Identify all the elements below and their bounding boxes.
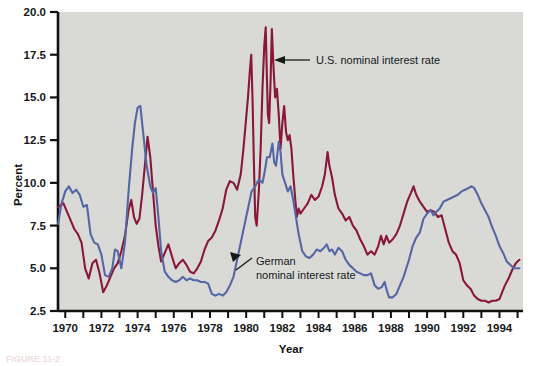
x-tick-label: 1976	[161, 322, 187, 334]
y-tick-label: 5.0	[30, 262, 46, 274]
y-axis-title: Percent	[12, 164, 24, 206]
y-tick-label: 17.5	[24, 49, 47, 61]
x-tick-label: 1994	[487, 322, 513, 334]
x-tick-label: 1990	[414, 322, 440, 334]
x-axis-title: Year	[279, 343, 304, 355]
y-tick-label: 10.0	[24, 177, 46, 189]
y-tick-label: 12.5	[24, 134, 47, 146]
x-tick-label: 1988	[378, 322, 404, 334]
figure-caption: FIGURE 11-2	[6, 354, 60, 364]
x-tick-label: 1984	[306, 322, 332, 334]
x-tick-label: 1986	[342, 322, 368, 334]
x-tick-label: 1972	[89, 322, 115, 334]
german-annotation-label-line2: nominal interest rate	[256, 269, 356, 281]
y-tick-label: 20.0	[24, 6, 46, 18]
us-annotation-label: U.S. nominal interest rate	[316, 54, 440, 66]
interest-rate-line-chart: 2.55.07.510.012.515.017.520.0 1970197219…	[0, 0, 535, 366]
x-tick-label: 1992	[450, 322, 476, 334]
x-tick-label: 1970	[52, 322, 78, 334]
german-annotation-label-line1: German	[256, 255, 296, 267]
y-tick-label: 15.0	[24, 91, 46, 103]
x-tick-label: 1974	[125, 322, 151, 334]
x-tick-label: 1980	[233, 322, 259, 334]
x-tick-label: 1978	[197, 322, 223, 334]
figure-container: 2.55.07.510.012.515.017.520.0 1970197219…	[0, 0, 535, 366]
y-tick-label: 7.5	[30, 220, 47, 232]
y-tick-label: 2.5	[30, 305, 47, 317]
x-tick-label: 1982	[270, 322, 296, 334]
